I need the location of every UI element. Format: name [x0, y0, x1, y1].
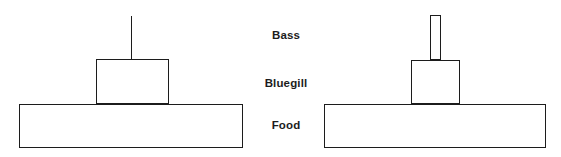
right-tier-bluegill — [411, 60, 460, 104]
right-tier-bass — [430, 15, 441, 60]
label-bluegill: Bluegill — [226, 78, 346, 90]
diagram-canvas: Bass Bluegill Food — [0, 0, 561, 157]
left-tier-bass — [131, 16, 132, 59]
left-tier-bluegill — [96, 59, 169, 104]
label-bass: Bass — [226, 30, 346, 42]
right-tier-food — [324, 104, 546, 148]
left-tier-food — [19, 104, 243, 148]
